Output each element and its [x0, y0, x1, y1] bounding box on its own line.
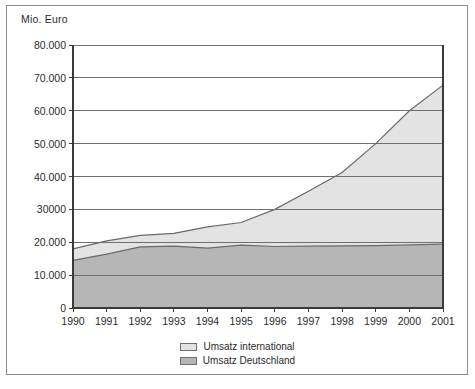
chart-legend: Umsatz internationalUmsatz Deutschland: [0, 341, 475, 366]
legend-swatch-icon: [180, 357, 197, 365]
chart-plot-area: [0, 0, 475, 389]
x-axis-tick-label: 1991: [95, 315, 118, 327]
y-axis-tick-label: 70.000: [0, 72, 66, 84]
x-axis-tick-label: 1997: [297, 315, 320, 327]
x-axis-tick-label: 2001: [431, 315, 454, 327]
x-axis-tick-label: 2000: [398, 315, 421, 327]
y-axis-tick-label: 50.000: [0, 138, 66, 150]
x-axis-tick-label: 1994: [196, 315, 219, 327]
area-umsatz-international: [73, 85, 443, 260]
area-umsatz-deutschland: [73, 244, 443, 308]
legend-label: Umsatz international: [203, 341, 294, 352]
legend-swatch-icon: [180, 343, 197, 351]
y-axis-tick-label: 80.000: [0, 39, 66, 51]
x-axis-tick-label: 1993: [162, 315, 185, 327]
x-axis-tick-label: 1992: [129, 315, 152, 327]
x-axis-tick-label: 1998: [330, 315, 353, 327]
legend-entry: Umsatz international: [180, 341, 294, 352]
y-axis-tick-label: 40.000: [0, 171, 66, 183]
y-axis-tick-label: 20.000: [0, 236, 66, 248]
chart-figure: Mio. Euro 010.00020.0003000040.00050.000…: [0, 0, 475, 389]
y-axis-tick-label: 30000: [0, 203, 66, 215]
y-axis-tick-label: 60.000: [0, 105, 66, 117]
y-axis-tick-label: 0: [0, 302, 66, 314]
x-axis-tick-label: 1995: [229, 315, 252, 327]
legend-entry: Umsatz Deutschland: [180, 355, 295, 366]
x-axis-tick-label: 1999: [364, 315, 387, 327]
x-axis-tick-label: 1996: [263, 315, 286, 327]
y-axis-tick-label: 10.000: [0, 269, 66, 281]
legend-label: Umsatz Deutschland: [203, 355, 295, 366]
x-axis-tick-label: 1990: [61, 315, 84, 327]
